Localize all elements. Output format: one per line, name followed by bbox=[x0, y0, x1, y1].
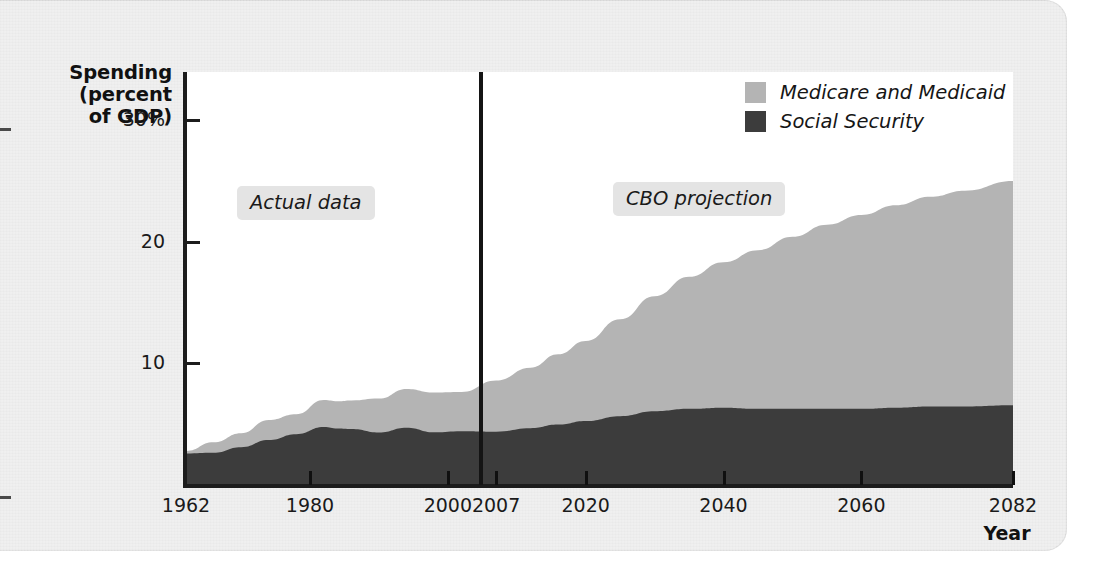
x-axis-title: Year bbox=[947, 522, 1067, 544]
x-tick-label: 2060 bbox=[806, 494, 916, 516]
y-tick-mark bbox=[187, 119, 200, 122]
figure-page: Spending (percent of GDP) 102030% 196219… bbox=[0, 0, 1103, 563]
y-tick-label: 30% bbox=[95, 108, 165, 130]
x-tick-mark bbox=[495, 471, 498, 485]
legend-item: Medicare and Medicaid bbox=[745, 78, 1005, 107]
y-tick-label: 10 bbox=[95, 351, 165, 373]
y-tick-mark bbox=[187, 362, 200, 365]
annotation-cbo-projection: CBO projection bbox=[613, 182, 785, 216]
projection-divider-line bbox=[479, 72, 483, 485]
y-tick-label: 20 bbox=[95, 230, 165, 252]
y-axis-title-line-1: Spending bbox=[0, 62, 172, 84]
legend-swatch-icon bbox=[745, 111, 766, 132]
y-axis-line bbox=[183, 72, 187, 485]
y-tick-mark bbox=[187, 241, 200, 244]
x-tick-label: 2040 bbox=[669, 494, 779, 516]
legend-swatch-icon bbox=[745, 82, 766, 103]
legend-label: Social Security bbox=[780, 110, 924, 133]
x-tick-mark bbox=[447, 471, 450, 485]
x-tick-mark bbox=[309, 471, 312, 485]
x-tick-mark bbox=[723, 471, 726, 485]
x-tick-label: 1962 bbox=[131, 494, 241, 516]
chart-legend: Medicare and MedicaidSocial Security bbox=[745, 78, 1005, 136]
x-axis-line bbox=[183, 484, 1013, 488]
legend-label: Medicare and Medicaid bbox=[780, 81, 1005, 104]
legend-item: Social Security bbox=[745, 107, 1005, 136]
stacked-area-chart: Spending (percent of GDP) 102030% 196219… bbox=[0, 0, 1103, 563]
x-tick-mark bbox=[860, 471, 863, 485]
annotation-actual-data: Actual data bbox=[237, 186, 375, 220]
x-tick-mark bbox=[1012, 471, 1015, 485]
x-tick-label: 2082 bbox=[958, 494, 1068, 516]
x-tick-label: 1980 bbox=[255, 494, 365, 516]
x-tick-label: 2020 bbox=[531, 494, 641, 516]
y-axis-title-line-2: (percent bbox=[0, 84, 172, 106]
x-tick-mark bbox=[585, 471, 588, 485]
